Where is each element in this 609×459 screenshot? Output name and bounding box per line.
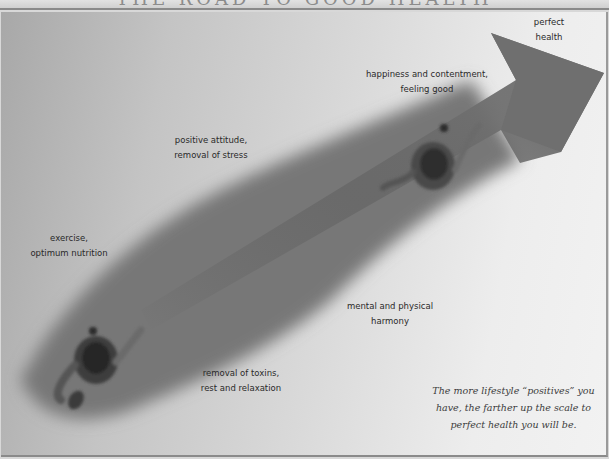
stage-label-positive-attitude: positive attitude, removal of stress — [161, 133, 261, 163]
caption-text: The more lifestyle “positives” you have,… — [421, 382, 606, 433]
stage-label-perfect-health: perfect health — [519, 15, 579, 45]
stage-label-harmony: mental and physical harmony — [335, 299, 445, 329]
title-bar: THE ROAD TO GOOD HEALTH — [0, 0, 609, 10]
stage-label-exercise: exercise, optimum nutrition — [19, 231, 119, 261]
stage-label-happiness: happiness and contentment, feeling good — [357, 67, 497, 97]
stage-label-toxins: removal of toxins, rest and relaxation — [191, 366, 291, 396]
diagram-panel: perfect health exercise, optimum nutriti… — [1, 12, 608, 457]
page-title: THE ROAD TO GOOD HEALTH — [0, 0, 609, 9]
